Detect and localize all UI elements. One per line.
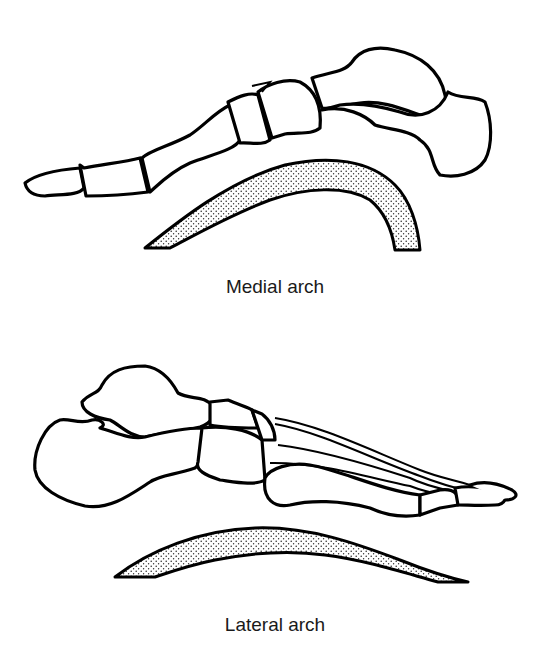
foot-arches-illustration: [0, 0, 554, 655]
foot-arches-diagram: Medial arch Lateral arch: [0, 0, 554, 655]
lateral-arch-caption: Lateral arch: [0, 614, 552, 636]
lateral-arch-shape: [115, 528, 468, 582]
medial-arch-shape: [145, 160, 420, 250]
medial-arch-caption: Medial arch: [0, 276, 552, 298]
lateral-foot-bones: [35, 366, 516, 516]
